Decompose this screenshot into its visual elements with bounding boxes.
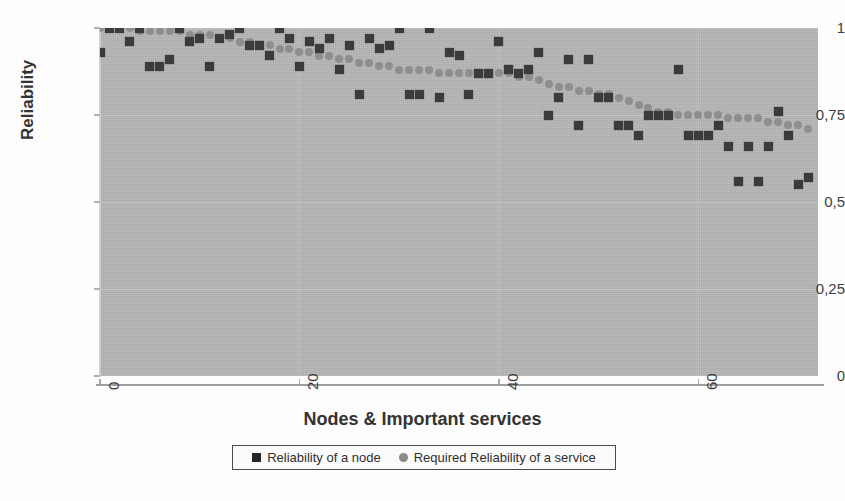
data-point-node	[355, 90, 364, 99]
x-tick-label: 0	[106, 382, 121, 390]
data-point-node	[794, 180, 803, 189]
gridline-horizontal	[100, 289, 818, 290]
data-point-service	[764, 118, 772, 126]
data-point-service	[625, 97, 633, 105]
data-point-service	[784, 121, 792, 129]
data-point-node	[674, 65, 683, 74]
data-point-node	[594, 93, 603, 102]
data-point-node	[305, 37, 314, 46]
data-point-node	[255, 41, 264, 50]
data-point-node	[544, 111, 553, 120]
data-point-node	[185, 37, 194, 46]
data-point-node	[494, 37, 503, 46]
data-point-service	[325, 52, 333, 60]
data-point-node	[474, 69, 483, 78]
data-point-node	[574, 121, 583, 130]
circle-marker-icon	[399, 453, 408, 462]
data-point-node	[115, 28, 124, 33]
data-point-node	[245, 41, 254, 50]
data-point-node	[604, 93, 613, 102]
data-point-service	[355, 59, 363, 67]
data-point-node	[554, 93, 563, 102]
data-point-node	[774, 107, 783, 116]
data-point-node	[285, 34, 294, 43]
data-point-service	[535, 76, 543, 84]
data-point-service	[635, 101, 643, 109]
data-point-service	[166, 28, 174, 35]
data-point-service	[375, 62, 383, 70]
data-point-node	[225, 30, 234, 39]
data-point-service	[465, 69, 473, 77]
data-point-node	[564, 55, 573, 64]
legend-entry-service[interactable]: Required Reliability of a service	[399, 450, 596, 465]
y-tick-mark	[94, 375, 100, 377]
gridline-vertical	[698, 28, 699, 376]
x-tick-mark	[299, 379, 301, 385]
data-point-service	[385, 62, 393, 70]
gridline-vertical	[499, 28, 500, 376]
x-tick-label: 60	[704, 373, 719, 390]
data-point-node	[205, 62, 214, 71]
legend-label-node: Reliability of a node	[267, 450, 380, 465]
data-point-node	[504, 65, 513, 74]
gridline-vertical	[299, 28, 300, 376]
data-point-service	[724, 114, 732, 122]
data-point-service	[804, 125, 812, 133]
data-point-service	[704, 111, 712, 119]
data-point-node	[445, 48, 454, 57]
data-point-service	[684, 111, 692, 119]
gridline-horizontal	[100, 202, 818, 203]
data-point-node	[694, 131, 703, 140]
legend-entry-node[interactable]: Reliability of a node	[252, 450, 380, 465]
data-point-node	[644, 111, 653, 120]
chart-legend: Reliability of a node Required Reliabili…	[232, 445, 616, 470]
data-point-node	[484, 69, 493, 78]
data-point-node	[125, 37, 134, 46]
y-tick-label: 1	[759, 20, 845, 35]
data-point-node	[155, 62, 164, 71]
data-point-service	[425, 66, 433, 74]
y-tick-mark	[94, 288, 100, 290]
data-point-service	[694, 111, 702, 119]
x-tick-mark	[498, 379, 500, 385]
data-point-node	[265, 51, 274, 60]
data-point-node	[100, 48, 105, 57]
square-marker-icon	[252, 453, 261, 462]
data-point-node	[295, 62, 304, 71]
data-point-node	[425, 28, 434, 33]
data-point-node	[764, 142, 773, 151]
data-point-node	[624, 121, 633, 130]
data-point-node	[744, 142, 753, 151]
y-tick-label: 0,25	[759, 281, 845, 296]
data-point-service	[445, 69, 453, 77]
data-point-node	[724, 142, 733, 151]
data-point-node	[385, 41, 394, 50]
data-point-service	[276, 45, 284, 53]
data-point-node	[235, 28, 244, 33]
data-point-service	[674, 111, 682, 119]
data-point-node	[415, 90, 424, 99]
data-point-node	[524, 65, 533, 74]
y-tick-mark	[94, 114, 100, 116]
y-tick-label: 0	[759, 368, 845, 383]
data-point-service	[266, 41, 274, 49]
data-point-service	[345, 55, 353, 63]
data-point-node	[135, 28, 144, 33]
data-point-service	[744, 114, 752, 122]
data-point-node	[175, 28, 184, 33]
data-point-service	[774, 118, 782, 126]
data-point-service	[146, 28, 154, 35]
data-point-node	[684, 131, 693, 140]
data-point-node	[704, 131, 713, 140]
data-point-node	[664, 111, 673, 120]
x-tick-mark	[99, 379, 101, 385]
data-point-node	[275, 28, 284, 33]
data-point-node	[634, 131, 643, 140]
data-point-node	[405, 90, 414, 99]
data-point-node	[345, 41, 354, 50]
data-point-service	[545, 80, 553, 88]
data-point-node	[804, 173, 813, 182]
data-point-service	[575, 87, 583, 95]
data-point-node	[215, 34, 224, 43]
data-point-node	[145, 62, 154, 71]
